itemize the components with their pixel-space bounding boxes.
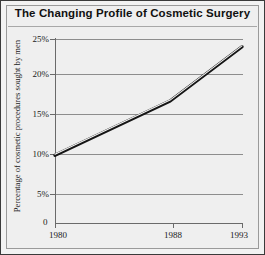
y-axis-title: Percentage of cosmetic procedures sought… — [12, 31, 22, 221]
y-tick-label-15: 15% — [19, 109, 49, 119]
plot-area — [55, 39, 243, 223]
origin-label: 0 — [43, 217, 48, 227]
y-tick-label-10: 10% — [19, 149, 49, 159]
gridline-15 — [55, 114, 243, 115]
x-tick-mark-1993 — [242, 223, 243, 228]
gridline-5 — [55, 194, 243, 195]
x-tick-label-1993: 1993 — [230, 230, 248, 240]
x-tick-mark-1988 — [173, 223, 174, 228]
x-tick-label-1988: 1988 — [164, 230, 182, 240]
y-tick-label-5: 5% — [19, 189, 49, 199]
chart-figure: The Changing Profile of Cosmetic Surgery… — [0, 0, 265, 255]
x-axis-line — [55, 223, 243, 224]
y-axis-line — [55, 38, 56, 224]
gridline-25 — [55, 39, 243, 40]
gridline-20 — [55, 74, 243, 75]
y-tick-label-20: 20% — [19, 69, 49, 79]
x-tick-mark-1980 — [55, 223, 56, 228]
gridline-10 — [55, 154, 243, 155]
y-tick-label-25: 25% — [19, 34, 49, 44]
x-tick-label-1980: 1980 — [49, 230, 67, 240]
